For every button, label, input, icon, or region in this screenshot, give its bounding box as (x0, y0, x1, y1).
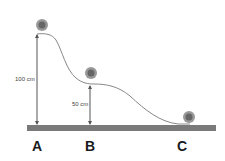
arrowhead-icon (88, 121, 92, 125)
ground-bar (27, 125, 216, 131)
height-label-a: 100 cm (15, 76, 35, 82)
point-label-b: B (85, 138, 95, 154)
height-label-b: 50 cm (72, 101, 88, 107)
arrowhead-icon (35, 121, 39, 125)
ball-icon-c-shade (186, 114, 193, 121)
point-label-a: A (32, 138, 42, 154)
track-curve (37, 34, 190, 124)
point-label-c: C (177, 138, 187, 154)
ball-icon-b-shade (88, 70, 95, 77)
arrowhead-icon (88, 85, 92, 89)
arrowhead-icon (35, 34, 39, 38)
ball-icon-a-shade (39, 22, 46, 29)
